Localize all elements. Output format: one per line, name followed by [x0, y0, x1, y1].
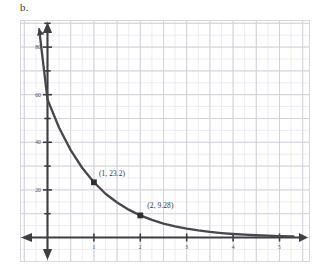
- y-tick-label: 60: [35, 92, 41, 98]
- data-point-marker: [91, 179, 97, 185]
- exponential-decay-chart: 1234520406080 (1, 23.2)(2, 9.28): [21, 21, 309, 261]
- data-point-label: (1, 23.2): [99, 169, 126, 178]
- y-tick-label: 40: [35, 139, 41, 145]
- y-tick-label: 80: [35, 44, 41, 50]
- y-axis-arrow-down: [43, 249, 52, 260]
- chart-page: b. 1234520406080 (1, 23.2)(2, 9.28): [0, 0, 329, 279]
- y-tick-label: 20: [35, 187, 41, 193]
- data-point-marker: [137, 213, 143, 219]
- x-axis-arrow-right: [299, 233, 308, 242]
- x-axis-arrow-left: [21, 233, 32, 242]
- data-point-label: (2, 9.28): [147, 201, 174, 210]
- x-tick-label: 4: [232, 244, 235, 250]
- x-tick-label: 2: [139, 244, 142, 250]
- x-tick-label: 1: [92, 244, 95, 250]
- x-tick-label: 3: [185, 244, 188, 250]
- part-label: b.: [20, 1, 29, 13]
- tick-labels: 1234520406080: [35, 44, 281, 249]
- chart-frame: 1234520406080 (1, 23.2)(2, 9.28): [20, 20, 310, 262]
- x-tick-label: 5: [278, 244, 281, 250]
